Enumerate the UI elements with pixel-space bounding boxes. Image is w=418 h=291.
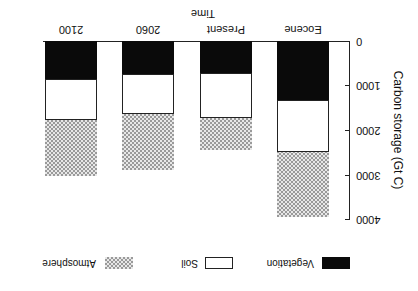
bar-2060 bbox=[122, 41, 174, 170]
segment-atmosphere bbox=[200, 118, 252, 150]
segment-atmosphere bbox=[45, 120, 97, 176]
y-tick bbox=[345, 175, 350, 176]
segment-atmosphere bbox=[277, 152, 329, 217]
x-axis-title: Time bbox=[163, 8, 243, 20]
segment-atmosphere bbox=[122, 114, 174, 170]
y-tick bbox=[345, 130, 350, 131]
x-category-label: 2100 bbox=[31, 24, 111, 36]
chart-canvas: 0 1000 2000 3000 4000 Carbon storage (Gt… bbox=[0, 0, 418, 291]
legend-swatch-vegetation bbox=[322, 257, 350, 269]
y-tick bbox=[345, 41, 350, 42]
y-tick-label: 3000 bbox=[356, 170, 396, 182]
legend-swatch-soil bbox=[205, 257, 233, 269]
segment-soil bbox=[277, 100, 329, 152]
y-tick-label: 1000 bbox=[356, 80, 396, 92]
y-tick-label: 0 bbox=[356, 36, 396, 48]
x-category-label: Present bbox=[186, 24, 266, 36]
segment-vegetation bbox=[277, 41, 329, 100]
y-axis-title: Carbon storage (Gt C) bbox=[391, 55, 405, 205]
y-tick bbox=[345, 85, 350, 86]
y-tick bbox=[345, 219, 350, 220]
segment-soil bbox=[122, 74, 174, 114]
legend-label-atmosphere: Atmosphere bbox=[42, 257, 96, 269]
legend-label-soil: Soil bbox=[181, 257, 198, 269]
legend-swatch-atmosphere bbox=[105, 257, 133, 269]
segment-soil bbox=[45, 79, 97, 120]
legend-label-vegetation: Vegetation bbox=[267, 257, 314, 269]
segment-vegetation bbox=[200, 41, 252, 73]
y-tick-label: 2000 bbox=[356, 125, 396, 137]
segment-vegetation bbox=[45, 41, 97, 79]
y-tick-label: 4000 bbox=[356, 214, 396, 226]
segment-vegetation bbox=[122, 41, 174, 74]
segment-soil bbox=[200, 73, 252, 118]
bar-eocene bbox=[277, 41, 329, 217]
bar-2100 bbox=[45, 41, 97, 176]
x-category-label: Eocene bbox=[263, 24, 343, 36]
x-category-label: 2060 bbox=[108, 24, 188, 36]
bar-present bbox=[200, 41, 252, 150]
